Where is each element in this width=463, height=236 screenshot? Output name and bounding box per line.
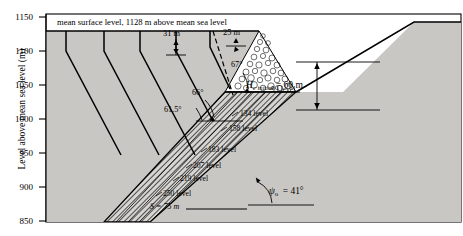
spacing-label: S = 75 m [150, 202, 179, 211]
y-tick-950: 950 [3, 148, 33, 158]
y-tick-1000: 1000 [3, 114, 33, 124]
y-tick-900: 900 [3, 182, 33, 192]
y-axis-ticks [39, 14, 46, 222]
dimension-label-31m: 31 m [163, 29, 180, 38]
dimension-label-25m: 25 m [223, 28, 240, 37]
level-label-99: 99 level [271, 85, 295, 94]
angle-label-psi-o: ψo = 41° [269, 186, 304, 197]
level-label-207: 207 level [193, 161, 221, 170]
mean-surface-caption: mean surface level, 1128 m above mean se… [57, 17, 227, 27]
level-label-134: 134 level [240, 109, 268, 118]
y-tick-1050: 1050 [3, 80, 33, 90]
level-label-158: 158 level [229, 124, 257, 133]
level-label-183: 183 level [208, 145, 236, 154]
plot-body [46, 22, 461, 222]
y-tick-1100: 1100 [3, 46, 33, 56]
level-label-250: 250 level [163, 189, 191, 198]
angle-label-66: 66° [192, 88, 203, 97]
y-tick-850: 850 [3, 216, 33, 226]
y-tick-1150: 1150 [3, 12, 33, 22]
angle-label-61-5: 61.5° [164, 105, 182, 114]
angle-label-67: 67° [231, 60, 242, 69]
level-label-219: 219 level [180, 174, 208, 183]
slope-stability-diagram: Level above mean sea level (m) 1150 1100… [0, 0, 463, 236]
